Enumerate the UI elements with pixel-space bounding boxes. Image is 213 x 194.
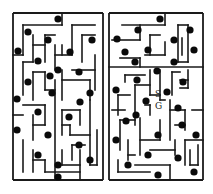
maze-dot (66, 48, 73, 55)
maze-dot (75, 68, 82, 75)
maze-dot (144, 151, 151, 158)
maze-dot (34, 57, 41, 64)
maze-dot (121, 48, 128, 55)
maze-dot (34, 151, 41, 158)
maze-dot (170, 58, 177, 65)
maze-dot (54, 15, 61, 22)
maze-dot (75, 141, 82, 148)
goal-marker: G (155, 101, 162, 111)
maze-dot (44, 36, 51, 43)
maze-dot (134, 26, 141, 33)
maze-dot (88, 36, 95, 43)
maze-dot (133, 76, 140, 83)
maze-dot (34, 108, 41, 115)
maze-dot (174, 104, 181, 111)
maze-dot (86, 156, 93, 163)
maze-dot (76, 98, 83, 105)
maze-dot (24, 78, 31, 85)
maze-dot (113, 35, 120, 42)
maze-figure: S G (0, 0, 213, 194)
start-marker: S (155, 89, 161, 99)
maze-dot (122, 117, 129, 124)
maze-dot (131, 58, 138, 65)
maze-dot (124, 161, 131, 168)
maze-dot (142, 97, 149, 104)
maze-dot (179, 78, 186, 85)
maze-dot (190, 46, 197, 53)
maze-dot (13, 126, 20, 133)
maze-dot (46, 72, 53, 79)
maze-dot (156, 15, 163, 22)
maze-dot (153, 67, 160, 74)
maze-dot (144, 46, 151, 53)
left-maze (13, 13, 103, 181)
maze-dot (163, 88, 170, 95)
maze-dot (86, 89, 93, 96)
maze-dot (190, 168, 197, 175)
maze-dot (132, 111, 139, 118)
maze-dot (13, 95, 20, 102)
maze-dot (112, 136, 119, 143)
maze-dot (54, 66, 61, 73)
maze-dot (174, 154, 181, 161)
maze-dot (178, 121, 185, 128)
maze-diagram: S G (0, 0, 213, 194)
maze-dot (54, 173, 61, 180)
maze-dot (170, 36, 177, 43)
maze-dot (24, 28, 31, 35)
maze-dot (44, 131, 51, 138)
maze-dot (154, 171, 161, 178)
maze-dot (54, 161, 61, 168)
maze-dot (48, 89, 55, 96)
maze-dot (112, 86, 119, 93)
maze-dot (192, 131, 199, 138)
maze-dot (154, 131, 161, 138)
maze-dot (14, 47, 21, 54)
maze-dot (65, 113, 72, 120)
maze-dot (186, 26, 193, 33)
